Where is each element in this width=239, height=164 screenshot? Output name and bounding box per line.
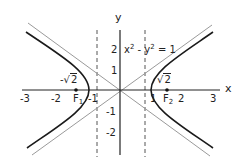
x-tick-label: -1 [88, 94, 98, 104]
x-tick-label: -2 [51, 94, 61, 104]
focus-f1-value: -√2 [60, 75, 77, 85]
x-tick-label: 3 [210, 94, 216, 104]
y-axis-label: y [115, 12, 122, 23]
focus-point-f1 [74, 88, 78, 92]
focus-f2-label: F2 [163, 94, 173, 106]
y-tick-label: 2 [111, 45, 117, 55]
focus-f1-label: F1 [73, 94, 83, 106]
hyperbola-diagram [0, 0, 239, 164]
x-tick-label: -3 [20, 94, 30, 104]
focus-point-f2 [165, 88, 169, 92]
x-tick-label: 2 [178, 94, 184, 104]
y-tick-label: 1 [111, 66, 117, 76]
equation-label: x2 - y2 = 1 [124, 44, 176, 55]
x-axis-label: x [225, 83, 232, 94]
y-tick-label: -2 [106, 128, 116, 138]
focus-f2-value: √2 [157, 75, 171, 85]
y-tick-label: -1 [106, 107, 116, 117]
x-tick-label: 1 [150, 94, 156, 104]
